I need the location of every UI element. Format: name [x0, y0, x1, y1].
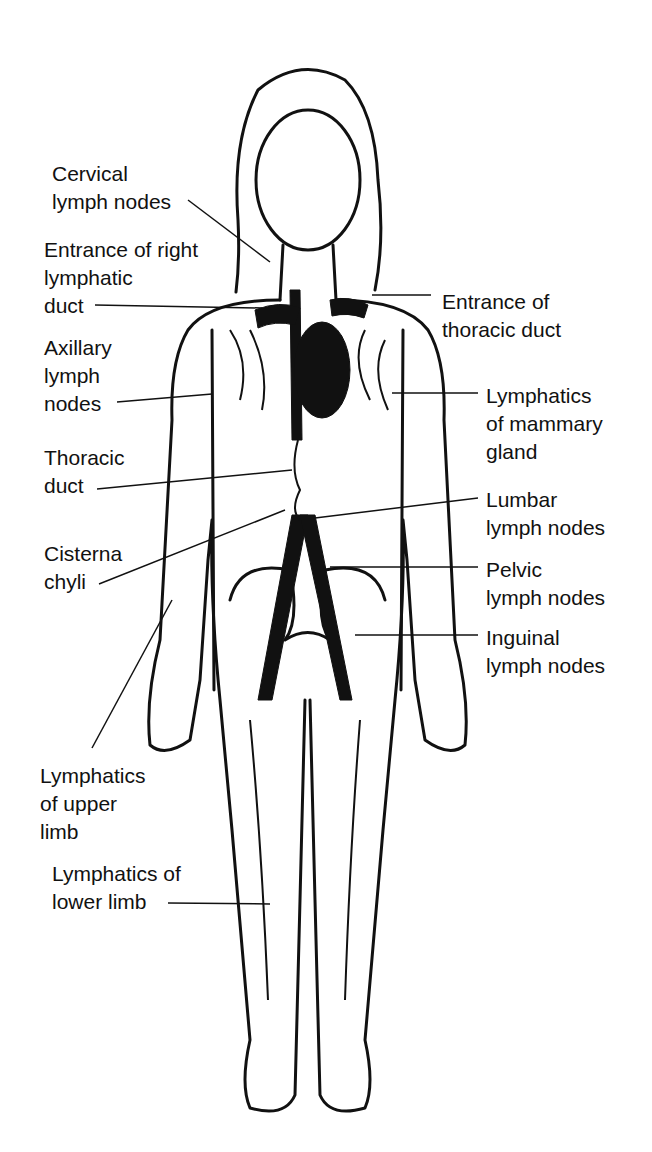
- label-inguinal-lymph-nodes: Inguinal lymph nodes: [486, 624, 605, 680]
- label-lumbar-lymph-nodes: Lumbar lymph nodes: [486, 486, 605, 542]
- label-lymphatics-upper-limb: Lymphatics of upper limb: [40, 762, 145, 846]
- label-lymphatics-mammary-gland: Lymphatics of mammary gland: [486, 382, 603, 466]
- label-pelvic-lymph-nodes: Pelvic lymph nodes: [486, 556, 605, 612]
- label-axillary-lymph-nodes: Axillary lymph nodes: [44, 334, 112, 418]
- label-entrance-thoracic-duct: Entrance of thoracic duct: [442, 288, 561, 344]
- label-lymphatics-lower-limb: Lymphatics of lower limb: [52, 860, 181, 916]
- label-cisterna-chyli: Cisterna chyli: [44, 540, 122, 596]
- label-thoracic-duct: Thoracic duct: [44, 444, 125, 500]
- label-cervical-lymph-nodes: Cervical lymph nodes: [52, 160, 171, 216]
- lymphatic-system-diagram: Cervical lymph nodes Entrance of right l…: [0, 0, 652, 1152]
- label-entrance-right-lymphatic-duct: Entrance of right lymphatic duct: [44, 236, 198, 320]
